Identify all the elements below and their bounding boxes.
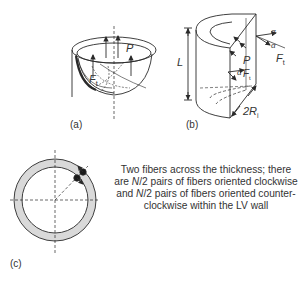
caption-line-3: and N/2 pairs of fibers oriented counter… <box>106 188 304 200</box>
caption-text: /2 pairs of fibers oriented counter- <box>143 188 295 199</box>
force-subscript: t <box>96 80 98 87</box>
panel-c-ring <box>10 150 100 254</box>
panel-b-force-label-lower: Ft <box>243 68 251 81</box>
panel-b-force-label-upper: Ft <box>276 52 285 66</box>
panel-b-angle-label-bottom: α <box>271 41 276 50</box>
panel-b-radius-label: 2Ri <box>243 105 259 119</box>
diagram-canvas <box>0 0 304 282</box>
panel-a-label: (a) <box>70 119 82 130</box>
panel-a-hemisphere <box>72 26 156 120</box>
caption-line-1: Two fibers across the thickness; there <box>106 164 304 176</box>
panel-b-half-cylinder <box>184 14 285 118</box>
panel-b-angle-label-top: α <box>271 27 276 36</box>
force-subscript: t <box>283 59 285 66</box>
caption-line-4: clockwise within the LV wall <box>106 200 304 212</box>
panel-a-force-label: Ft <box>89 73 98 87</box>
caption-line-2: are N/2 pairs of fibers oriented clockwi… <box>106 176 304 188</box>
panel-c-label: (c) <box>10 258 22 269</box>
panel-b-label: (b) <box>186 119 198 130</box>
panel-b-angle-label-lower: α <box>237 68 242 77</box>
radius-symbol: 2R <box>243 105 257 117</box>
panel-b-length-label: L <box>177 56 183 68</box>
force-subscript: t <box>249 75 251 81</box>
panel-a-pressure-label: P <box>126 42 133 54</box>
panel-c-caption: Two fibers across the thickness; there a… <box>106 164 304 212</box>
force-symbol: F <box>276 52 283 64</box>
radius-subscript: i <box>257 112 259 119</box>
caption-text: /2 pairs of fibers oriented clockwise <box>139 176 298 187</box>
caption-text: are <box>114 176 132 187</box>
caption-text: and <box>116 188 136 199</box>
panel-b-pressure-label: P <box>243 54 250 66</box>
force-symbol: F <box>89 73 96 85</box>
